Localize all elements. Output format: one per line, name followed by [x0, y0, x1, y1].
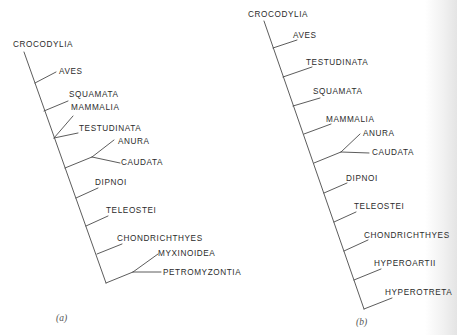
taxon-label-crocodylia: CROCODYLIA — [248, 10, 308, 19]
taxon-label-squamata: SQUAMATA — [69, 90, 119, 99]
branch-line — [92, 157, 120, 163]
branch-line — [364, 298, 392, 309]
cladogram-panel-a: CROCODYLIAAVESSQUAMATAMAMMALIATESTUDINAT… — [13, 40, 241, 324]
branch-line — [334, 212, 356, 222]
branch-line — [44, 101, 68, 111]
taxon-label-teleostei: TELEOSTEI — [106, 206, 156, 215]
taxon-label-hyperotreta: HYPEROTRETA — [385, 288, 452, 297]
taxon-label-chondrichthyes: CHONDRICHTHYES — [117, 234, 203, 243]
branch-line — [106, 272, 133, 283]
branch-line — [304, 124, 331, 134]
branch-line — [283, 67, 312, 77]
branch-line — [35, 72, 56, 83]
panel-label-a: (a) — [56, 313, 67, 324]
taxon-label-anura: ANURA — [118, 137, 150, 146]
branch-line — [86, 216, 108, 226]
taxon-label-aves: AVES — [293, 31, 317, 40]
branch-line — [133, 254, 158, 272]
taxon-label-mammalia: MAMMALIA — [326, 115, 374, 124]
branch-line — [314, 152, 341, 163]
branch-line — [65, 157, 92, 168]
taxon-label-dipnoi: DIPNOI — [95, 178, 127, 187]
branch-line — [354, 269, 381, 280]
taxon-label-teleostei: TELEOSTEI — [354, 202, 404, 211]
taxon-label-caudata: CAUDATA — [121, 158, 163, 167]
branch-line — [76, 188, 98, 198]
branch-line — [344, 240, 368, 251]
taxon-label-petromyzontia: PETROMYZONTIA — [163, 268, 241, 277]
cladogram-figure: CROCODYLIAAVESSQUAMATAMAMMALIATESTUDINAT… — [0, 0, 457, 335]
taxon-label-mammalia: MAMMALIA — [71, 103, 119, 112]
cladogram-canvas: CROCODYLIAAVESSQUAMATAMAMMALIATESTUDINAT… — [0, 0, 457, 335]
branch-line — [324, 183, 347, 193]
taxon-label-chondrichthyes: CHONDRICHTHYES — [364, 231, 450, 240]
taxon-label-dipnoi: DIPNOI — [346, 174, 378, 183]
taxon-label-hyperoartii: HYPEROARTII — [374, 259, 436, 268]
branch-line — [341, 134, 360, 152]
branch-line — [97, 244, 122, 254]
branch-line — [92, 140, 114, 157]
taxon-label-squamata: SQUAMATA — [313, 87, 363, 96]
cladogram-panel-b: CROCODYLIAAVESTESTUDINATASQUAMATAMAMMALI… — [248, 10, 452, 328]
taxon-label-testudinata: TESTUDINATA — [306, 58, 368, 67]
taxon-label-anura: ANURA — [363, 129, 395, 138]
taxon-label-crocodylia: CROCODYLIA — [13, 40, 73, 49]
taxon-label-testudinata: TESTUDINATA — [79, 124, 141, 133]
taxon-label-caudata: CAUDATA — [372, 148, 414, 157]
branch-line — [273, 40, 297, 48]
panel-label-b: (b) — [356, 317, 367, 328]
taxon-label-aves: AVES — [59, 67, 83, 76]
branch-line — [293, 98, 320, 106]
main-stem-line — [24, 52, 106, 283]
branch-line — [341, 152, 369, 153]
taxon-label-myxinoidea: MYXINOIDEA — [158, 249, 215, 258]
